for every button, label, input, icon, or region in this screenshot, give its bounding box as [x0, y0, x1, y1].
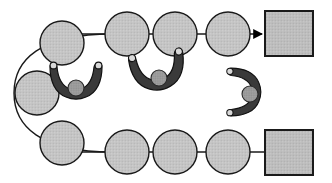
figure-canvas: Robot gripper trajectory diagram A curve…	[0, 0, 332, 183]
waypoint-b3	[153, 130, 197, 174]
gripper-fingertip-right	[175, 47, 183, 55]
waypoint-u1	[40, 21, 84, 65]
waypoint-u3	[153, 12, 197, 56]
waypoint-u4	[206, 12, 250, 56]
gripper-fingertip-left	[50, 62, 57, 69]
waypoint-b2	[105, 130, 149, 174]
trajectory-diagram	[0, 0, 332, 183]
gripper-fingertip-left	[128, 54, 136, 62]
gripper-fingertip-right	[95, 62, 102, 69]
gripper-fingertip-right	[227, 68, 233, 74]
gripper-left-ball	[68, 80, 84, 96]
gripper-group	[50, 47, 261, 115]
waypoint-b1	[40, 121, 84, 165]
target-square-bottom	[265, 130, 313, 175]
target-group	[265, 11, 313, 175]
waypoint-b4	[206, 130, 250, 174]
gripper-middle-ball	[151, 70, 167, 86]
waypoint-group	[15, 12, 250, 174]
target-square-top	[265, 11, 313, 56]
gripper-fingertip-left	[227, 110, 233, 116]
waypoint-u2	[105, 12, 149, 56]
gripper-right-ball	[242, 86, 258, 102]
